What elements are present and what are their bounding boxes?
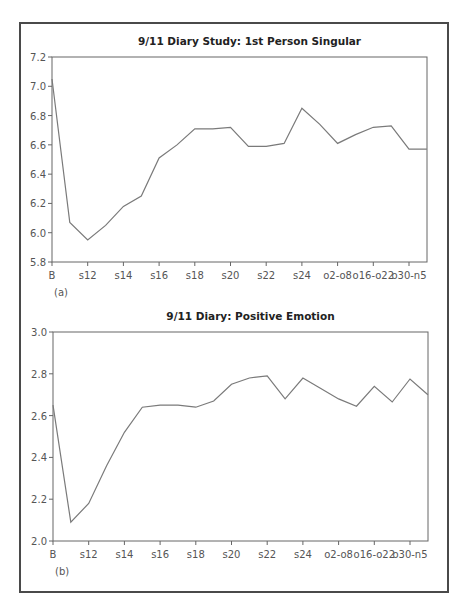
y-tick-label: 3.0 (31, 327, 47, 338)
x-tick-label: s18 (187, 549, 205, 560)
x-tick-label: o2-o8 (324, 549, 353, 560)
x-tick-label: o30-n5 (392, 549, 427, 560)
x-tick-label: s22 (258, 549, 276, 560)
chart-b: 9/11 Diary: Positive Emotion2.02.22.42.6… (0, 0, 465, 608)
y-tick-label: 2.8 (31, 369, 47, 380)
series-line (53, 376, 428, 522)
x-tick-label: s16 (151, 549, 169, 560)
y-tick-label: 2.2 (31, 494, 47, 505)
chart-title: 9/11 Diary: Positive Emotion (166, 310, 334, 322)
x-tick-label: s12 (80, 549, 98, 560)
y-tick-label: 2.4 (31, 452, 47, 463)
plot-area (53, 332, 428, 541)
panel-label: (b) (55, 566, 69, 577)
chart-b-svg: 9/11 Diary: Positive Emotion2.02.22.42.6… (0, 0, 465, 608)
x-tick-label: s24 (294, 549, 312, 560)
x-tick-label: s20 (223, 549, 241, 560)
y-tick-label: 2.6 (31, 411, 47, 422)
y-tick-label: 2.0 (31, 536, 47, 547)
x-tick-label: B (50, 549, 57, 560)
x-tick-label: s14 (115, 549, 133, 560)
x-tick-label: o16-o22 (354, 549, 395, 560)
